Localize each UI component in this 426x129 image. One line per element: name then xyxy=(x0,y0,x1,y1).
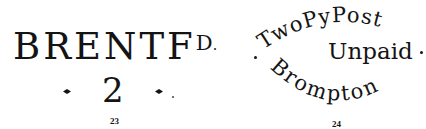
stamp-line2: 2 xyxy=(60,73,180,107)
postmark-brompton: TwoPyPost Brompton Unpaid xyxy=(250,0,426,120)
ink-speck xyxy=(172,96,174,98)
figure-caption-24: 24 xyxy=(332,120,341,129)
diamond-ornament-icon xyxy=(155,89,163,94)
stamp-middle-text: Unpaid xyxy=(328,40,413,63)
stamp-number: 2 xyxy=(102,73,124,107)
dot-ornament-icon xyxy=(254,56,257,59)
stamp-line1-main: BRENTF xyxy=(13,25,196,68)
stamp-text-brentford: BRENTFD. xyxy=(13,28,217,65)
figure-caption-23: 23 xyxy=(110,117,119,126)
diamond-ornament-icon xyxy=(63,89,71,94)
postmark-brentford: BRENTFD. 2 23 xyxy=(0,0,230,129)
dot-ornament-icon xyxy=(420,51,423,54)
stamp-line1-superscript: D. xyxy=(196,31,217,55)
